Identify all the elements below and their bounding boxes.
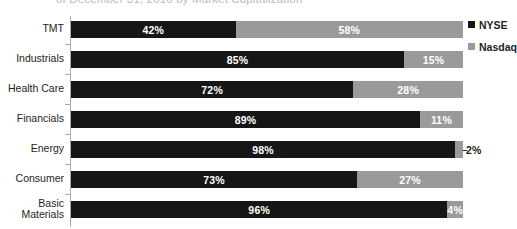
legend-item[interactable]: NYSE — [468, 16, 517, 33]
bar-segment-nyse[interactable]: 73% — [71, 171, 357, 188]
axis-tick — [65, 164, 71, 165]
bar-row: Basic Materials96%4% — [0, 194, 517, 224]
axis-tick — [65, 74, 71, 75]
bar-segment-nyse[interactable]: 98% — [71, 141, 455, 158]
bar-segment-nyse[interactable]: 85% — [71, 51, 404, 68]
bar-value-label: 11% — [431, 114, 452, 126]
bar-segment-nasdaq[interactable]: 28% — [353, 81, 463, 98]
category-label: Financials — [0, 104, 64, 134]
bar-track: 73%27% — [71, 171, 463, 188]
bar-segment-nyse[interactable]: 96% — [71, 201, 447, 218]
axis-tick — [65, 134, 71, 135]
bar-value-label: 96% — [248, 204, 270, 216]
axis-tick — [65, 104, 71, 105]
chart-title: of December 31, 2016 by Market Capitaliz… — [56, 0, 386, 7]
legend-swatch-icon — [468, 21, 475, 28]
chart-legend: NYSENasdaq — [468, 16, 517, 60]
category-label: TMT — [0, 14, 64, 44]
plot-area: TMT42%58%Industrials85%15%Health Care72%… — [0, 14, 517, 229]
bar-row: Health Care72%28% — [0, 74, 517, 104]
category-label: Health Care — [0, 74, 64, 104]
bar-segment-nyse[interactable]: 72% — [71, 81, 353, 98]
bar-segment-nyse[interactable]: 42% — [71, 21, 236, 38]
legend-item[interactable]: Nasdaq — [468, 38, 517, 55]
legend-swatch-icon — [468, 43, 475, 50]
bar-value-label: 85% — [227, 54, 249, 66]
bar-value-label: 73% — [203, 174, 225, 186]
axis-tick — [65, 44, 71, 45]
bar-value-label: 28% — [397, 84, 419, 96]
bar-value-label: 89% — [235, 114, 257, 126]
bar-track: 98%2% — [71, 141, 463, 158]
bar-value-label: 72% — [201, 84, 223, 96]
bar-value-label: 4% — [447, 204, 463, 216]
bar-row: Financials89%11% — [0, 104, 517, 134]
bar-segment-nasdaq[interactable]: 27% — [357, 171, 463, 188]
legend-label: Nasdaq — [479, 41, 517, 53]
bar-segment-nyse[interactable]: 89% — [71, 111, 420, 128]
legend-label: NYSE — [479, 19, 508, 31]
bar-segment-nasdaq[interactable]: 11% — [420, 111, 463, 128]
bar-row: Consumer73%27% — [0, 164, 517, 194]
category-label: Consumer — [0, 164, 64, 194]
category-label: Energy — [0, 134, 64, 164]
stacked-bar-chart: of December 31, 2016 by Market Capitaliz… — [0, 0, 517, 229]
bar-track: 96%4% — [71, 201, 463, 218]
bar-segment-nasdaq[interactable]: 58% — [236, 21, 463, 38]
bar-row: TMT42%58% — [0, 14, 517, 44]
bar-track: 89%11% — [71, 111, 463, 128]
bar-segment-nasdaq[interactable]: 15% — [404, 51, 463, 68]
bar-value-label: 42% — [143, 24, 165, 36]
bar-value-label: 2% — [466, 144, 482, 156]
axis-tick — [65, 194, 71, 195]
bar-track: 85%15% — [71, 51, 463, 68]
bar-track: 72%28% — [71, 81, 463, 98]
category-label: Basic Materials — [0, 194, 64, 224]
bar-value-label: 58% — [338, 24, 360, 36]
bar-segment-nasdaq[interactable]: 2% — [455, 141, 463, 158]
bar-rows: TMT42%58%Industrials85%15%Health Care72%… — [0, 14, 517, 229]
bar-value-label: 98% — [252, 144, 274, 156]
bar-segment-nasdaq[interactable]: 4% — [447, 201, 463, 218]
category-label: Industrials — [0, 44, 64, 74]
bar-row: Industrials85%15% — [0, 44, 517, 74]
bar-row: Energy98%2% — [0, 134, 517, 164]
bar-value-label: 15% — [423, 54, 445, 66]
bar-track: 42%58% — [71, 21, 463, 38]
bar-value-label: 27% — [399, 174, 421, 186]
